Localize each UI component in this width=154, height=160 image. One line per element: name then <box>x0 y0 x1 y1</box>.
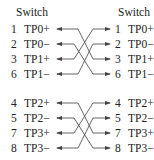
crossover-wires <box>0 0 154 160</box>
